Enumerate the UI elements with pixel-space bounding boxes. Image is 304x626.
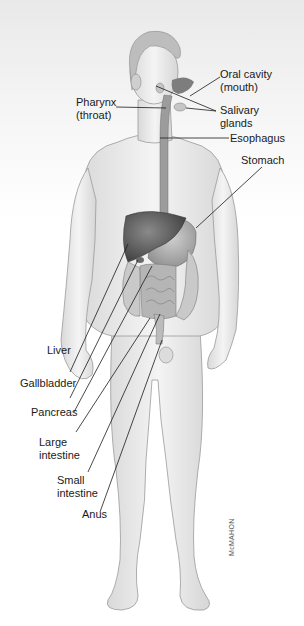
label-text: Anus (82, 508, 107, 521)
label-salivary-glands: Salivary glands (220, 104, 259, 129)
label-pancreas: Pancreas (31, 406, 77, 419)
label-text: intestine (57, 487, 98, 500)
body-figure (61, 40, 239, 610)
anatomy-illustration (0, 0, 304, 626)
label-text: Pharynx (76, 96, 116, 109)
label-text: (mouth) (220, 81, 272, 94)
label-anus: Anus (82, 508, 107, 521)
label-text: Large (39, 436, 80, 449)
artist-signature: McMAHON (228, 519, 235, 557)
label-stomach: Stomach (241, 154, 284, 167)
label-text: glands (220, 117, 259, 130)
label-gallbladder: Gallbladder (20, 377, 76, 390)
label-small-intestine: Small intestine (57, 474, 98, 499)
label-text: Salivary (220, 104, 259, 117)
label-liver: Liver (47, 344, 71, 357)
label-text: Small (57, 474, 98, 487)
label-large-intestine: Large intestine (39, 436, 80, 461)
oral-cavity-shape (172, 77, 194, 94)
label-text: Oral cavity (220, 68, 272, 81)
label-text: Gallbladder (20, 377, 76, 390)
digestive-system-diagram: Oral cavity (mouth) Pharynx (throat) Sal… (0, 0, 304, 626)
label-text: Esophagus (230, 132, 285, 145)
label-oral-cavity: Oral cavity (mouth) (220, 68, 272, 93)
label-text: Pancreas (31, 406, 77, 419)
label-text: Stomach (241, 154, 284, 167)
label-text: Liver (47, 344, 71, 357)
label-text: intestine (39, 449, 80, 462)
label-esophagus: Esophagus (230, 132, 285, 145)
label-text: (throat) (76, 109, 116, 122)
label-pharynx: Pharynx (throat) (76, 96, 116, 121)
